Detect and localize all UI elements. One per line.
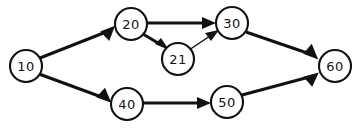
node-30-label: 30 <box>223 16 240 31</box>
edge-10-to-20 <box>40 26 119 58</box>
edge-30-to-60-line <box>246 32 313 55</box>
node-50[interactable]: 50 <box>211 86 243 118</box>
edge-50-to-60 <box>242 73 322 95</box>
node-10[interactable]: 10 <box>10 50 42 82</box>
node-40[interactable]: 40 <box>111 88 143 120</box>
edge-40-to-50 <box>143 97 211 109</box>
edge-10-to-20-line <box>40 30 111 58</box>
node-21[interactable]: 21 <box>162 43 194 75</box>
node-21-label: 21 <box>169 52 186 67</box>
directed-graph: 10 20 21 30 40 50 60 <box>0 0 362 129</box>
node-40-label: 40 <box>118 97 135 112</box>
node-10-label: 10 <box>17 59 34 74</box>
diagram-canvas: 10 20 21 30 40 50 60 <box>0 0 362 129</box>
edge-10-to-40 <box>39 74 115 103</box>
node-50-label: 50 <box>218 95 235 110</box>
edge-30-to-60-arrowhead <box>303 42 322 59</box>
node-60[interactable]: 60 <box>319 50 351 82</box>
node-20-label: 20 <box>122 17 139 32</box>
edge-20-to-30 <box>147 17 216 29</box>
edge-21-to-30-arrowhead <box>205 30 219 41</box>
edge-21-to-30 <box>189 30 219 50</box>
node-20[interactable]: 20 <box>115 8 147 40</box>
edge-10-to-40-line <box>39 74 107 99</box>
node-60-label: 60 <box>326 59 343 74</box>
edge-20-to-30-arrowhead <box>202 17 216 29</box>
edge-50-to-60-arrowhead <box>303 73 322 89</box>
edge-40-to-50-arrowhead <box>197 97 211 109</box>
edge-20-to-21 <box>143 34 169 50</box>
node-30[interactable]: 30 <box>216 7 248 39</box>
edge-50-to-60-line <box>242 76 313 95</box>
edge-30-to-60 <box>246 32 322 60</box>
